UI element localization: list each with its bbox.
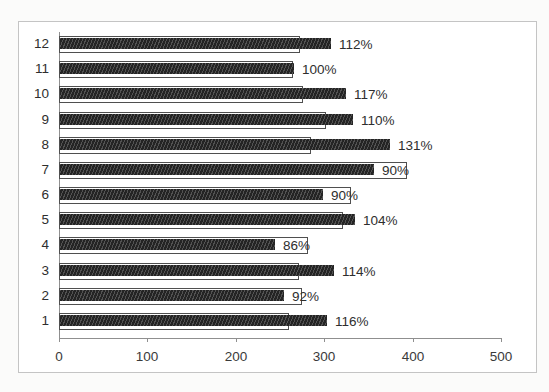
filled-value-bar xyxy=(60,189,323,200)
filled-value-bar xyxy=(60,315,327,326)
filled-value-bar xyxy=(60,63,294,74)
x-tick-label: 0 xyxy=(29,349,89,364)
category-label: 8 xyxy=(19,137,49,153)
percent-label: 90% xyxy=(382,162,409,179)
x-tick-label: 100 xyxy=(117,349,177,364)
x-tick-mark xyxy=(236,338,237,342)
x-tick-mark xyxy=(413,338,414,342)
category-label: 4 xyxy=(19,237,49,253)
filled-value-bar xyxy=(60,114,353,125)
filled-value-bar xyxy=(60,239,275,250)
category-label: 1 xyxy=(19,313,49,329)
filled-value-bar xyxy=(60,214,355,225)
category-label: 5 xyxy=(19,212,49,228)
percent-label: 112% xyxy=(339,36,373,53)
percent-label: 114% xyxy=(342,263,376,280)
x-tick-label: 200 xyxy=(206,349,266,364)
category-label: 10 xyxy=(19,86,49,102)
category-label: 2 xyxy=(19,288,49,304)
category-label: 3 xyxy=(19,263,49,279)
filled-value-bar xyxy=(60,139,390,150)
category-label: 12 xyxy=(19,36,49,52)
bar-chart-frame: 12112%11100%10117%9110%8131%790%690%5104… xyxy=(18,21,537,373)
percent-label: 86% xyxy=(283,237,310,254)
x-tick-label: 300 xyxy=(294,349,354,364)
category-label: 11 xyxy=(19,61,49,77)
x-tick-mark xyxy=(501,338,502,342)
filled-value-bar xyxy=(60,38,331,49)
filled-value-bar xyxy=(60,88,346,99)
percent-label: 131% xyxy=(398,137,433,154)
filled-value-bar xyxy=(60,265,334,276)
x-tick-mark xyxy=(147,338,148,342)
filled-value-bar xyxy=(60,164,374,175)
percent-label: 100% xyxy=(302,61,337,78)
percent-label: 110% xyxy=(361,112,395,129)
percent-label: 116% xyxy=(335,313,369,330)
category-label: 6 xyxy=(19,187,49,203)
x-tick-mark xyxy=(59,338,60,342)
percent-label: 104% xyxy=(363,212,398,229)
x-axis-line xyxy=(59,338,501,339)
percent-label: 117% xyxy=(354,86,388,103)
category-label: 9 xyxy=(19,112,49,128)
category-label: 7 xyxy=(19,162,49,178)
x-tick-label: 400 xyxy=(383,349,443,364)
x-tick-mark xyxy=(324,338,325,342)
filled-value-bar xyxy=(60,290,284,301)
percent-label: 90% xyxy=(331,187,358,204)
percent-label: 92% xyxy=(292,288,319,305)
x-tick-label: 500 xyxy=(471,349,531,364)
